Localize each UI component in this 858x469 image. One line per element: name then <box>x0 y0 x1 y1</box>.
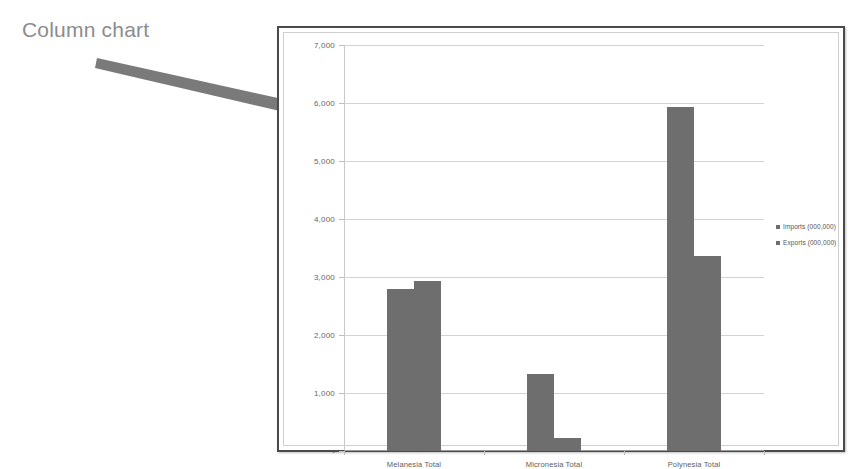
bar-imports[interactable] <box>387 289 414 451</box>
chart-plot-area: -1,0002,0003,0004,0005,0006,0007,000 Mel… <box>344 45 764 451</box>
x-axis-category-label: Polynesia Total <box>668 460 721 469</box>
y-axis-tick-label: 2,000 <box>314 331 335 340</box>
y-axis-tick-label: 3,000 <box>314 273 335 282</box>
chart-bars-layer: Melanesia TotalMicronesia TotalPolynesia… <box>344 45 764 451</box>
legend-label: Imports (000,000) <box>783 223 836 230</box>
chart-legend: Imports (000,000)Exports (000,000) <box>776 223 850 255</box>
x-axis-tick <box>624 451 625 455</box>
bar-exports[interactable] <box>414 281 441 451</box>
y-axis-tick-label: 6,000 <box>314 99 335 108</box>
annotation-label: Column chart <box>22 18 149 42</box>
y-axis-tick-label: 5,000 <box>314 157 335 166</box>
chart-picture-frame[interactable]: -1,0002,0003,0004,0005,0006,0007,000 Mel… <box>277 26 845 452</box>
legend-entry[interactable]: Imports (000,000) <box>776 223 850 230</box>
y-axis-tick-label: 4,000 <box>314 215 335 224</box>
y-axis-tick-label: - <box>332 447 335 456</box>
bar-imports[interactable] <box>527 374 554 451</box>
bar-group: Micronesia Total <box>527 45 582 451</box>
bar-imports[interactable] <box>667 107 694 451</box>
bar-group: Polynesia Total <box>667 45 722 451</box>
y-axis-tick-label: 7,000 <box>314 41 335 50</box>
x-axis-tick <box>764 451 765 455</box>
legend-entry[interactable]: Exports (000,000) <box>776 239 850 246</box>
y-axis-tick-label: 1,000 <box>314 389 335 398</box>
x-axis-category-label: Micronesia Total <box>526 460 582 469</box>
bar-group: Melanesia Total <box>387 45 442 451</box>
legend-swatch-icon <box>776 241 780 245</box>
x-axis-category-label: Melanesia Total <box>387 460 441 469</box>
legend-swatch-icon <box>776 225 780 229</box>
bar-exports[interactable] <box>694 256 721 451</box>
x-axis-tick <box>344 451 345 455</box>
bar-exports[interactable] <box>554 438 581 451</box>
chart-frame-inner-border: -1,0002,0003,0004,0005,0006,0007,000 Mel… <box>283 32 839 446</box>
x-axis-tick <box>484 451 485 455</box>
legend-label: Exports (000,000) <box>783 239 836 246</box>
